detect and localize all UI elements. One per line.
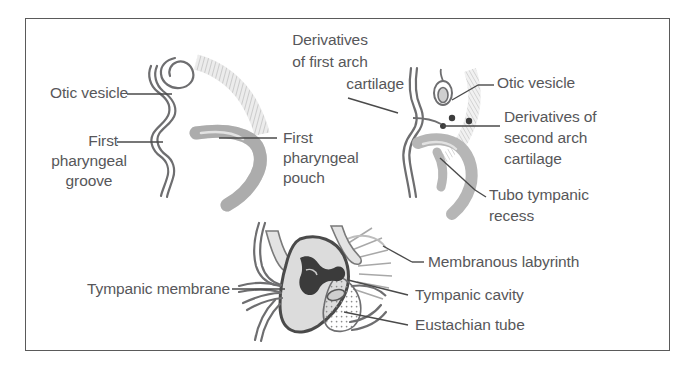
label-derivatives-second-arch-line1: Derivatives of xyxy=(504,108,597,126)
label-tympanic-membrane: Tympanic membrane xyxy=(38,280,230,298)
label-first-pharyngeal-pouch-line1: First xyxy=(283,129,313,147)
label-derivatives-second-arch-line3: cartilage xyxy=(504,150,562,168)
label-first-pharyngeal-pouch-line2: pharyngeal xyxy=(283,149,359,167)
label-membranous-labyrinth: Membranous labyrinth xyxy=(428,253,579,271)
label-otic-vesicle-left: Otic vesicle xyxy=(32,84,128,102)
label-derivatives-second-arch-line2: second arch xyxy=(504,129,587,147)
label-tympanic-cavity: Tympanic cavity xyxy=(415,286,524,304)
label-first-pharyngeal-groove-line1: First xyxy=(28,132,118,150)
label-tubo-tympanic-recess-line2: recess xyxy=(489,207,534,225)
anatomy-figure: Otic vesicle First pharyngeal groove Fir… xyxy=(0,0,690,373)
label-first-pharyngeal-groove-line2: pharyngeal xyxy=(28,152,150,170)
label-otic-vesicle-right: Otic vesicle xyxy=(497,74,575,92)
label-tubo-tympanic-recess-line1: Tubo tympanic xyxy=(489,186,589,204)
label-first-pharyngeal-pouch-line3: pouch xyxy=(283,169,325,187)
label-derivatives-first-arch-line3: cartilage xyxy=(256,75,404,93)
label-derivatives-first-arch-line2: of first arch xyxy=(256,53,404,71)
label-eustachian-tube: Eustachian tube xyxy=(415,316,525,334)
label-derivatives-first-arch-line1: Derivatives xyxy=(256,31,404,49)
label-first-pharyngeal-groove-line3: groove xyxy=(28,172,150,190)
